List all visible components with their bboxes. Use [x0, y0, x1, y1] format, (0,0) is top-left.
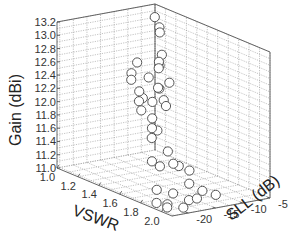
- grid-line: [57, 117, 155, 135]
- y-tick-label: -5: [278, 198, 288, 210]
- z-tick-label: 11.4: [35, 135, 56, 147]
- y-tick-label: -20: [196, 213, 212, 225]
- data-point: [134, 97, 143, 106]
- z-tick-label: 13.2: [35, 16, 56, 28]
- grid-line: [155, 97, 270, 145]
- grid-line: [57, 137, 155, 155]
- grid-line: [155, 17, 270, 65]
- grid-line: [57, 24, 155, 42]
- data-point: [147, 157, 156, 166]
- z-tick-label: 13.0: [35, 29, 56, 41]
- z-tick-label: 12.4: [35, 69, 56, 81]
- data-point: [127, 75, 136, 84]
- data-points: [127, 13, 221, 213]
- data-point: [137, 106, 146, 115]
- grid-line: [155, 11, 270, 59]
- y-tick: [213, 207, 216, 208]
- data-point: [179, 203, 188, 212]
- grid-line: [57, 130, 155, 148]
- data-point: [147, 124, 156, 133]
- data-point: [135, 87, 144, 96]
- data-point: [150, 13, 159, 22]
- data-point: [185, 166, 194, 175]
- z-tick-label: 12.6: [35, 56, 56, 68]
- data-point: [155, 28, 164, 37]
- data-point: [185, 179, 194, 188]
- grid-line: [155, 70, 270, 118]
- data-point: [211, 190, 220, 199]
- z-tick-label: 11.2: [35, 149, 56, 161]
- top-right-edge: [155, 4, 270, 52]
- x-tick-label: 2.0: [144, 215, 159, 227]
- data-point: [163, 203, 172, 212]
- data-point: [148, 114, 157, 123]
- z-tick-label: 12.0: [35, 96, 56, 108]
- z-axis-label: Gain (dBi): [7, 74, 24, 146]
- scatter-3d-chart: 11.011.211.411.611.812.012.212.412.612.8…: [0, 0, 290, 246]
- grid-line: [155, 104, 270, 152]
- data-point: [152, 185, 161, 194]
- data-point: [169, 159, 178, 168]
- z-tick-label: 12.8: [35, 43, 56, 55]
- data-point: [165, 78, 174, 87]
- x-tick-label: 1.0: [40, 171, 55, 183]
- y-axis-label: SLL (dB): [223, 172, 283, 224]
- data-point: [168, 189, 177, 198]
- data-point: [163, 147, 172, 156]
- grid-line: [57, 17, 155, 35]
- z-tick-label: 11.8: [35, 109, 56, 121]
- grid-line: [57, 70, 155, 88]
- grid-line: [155, 24, 270, 72]
- grid-line: [155, 130, 270, 178]
- data-point: [152, 198, 161, 207]
- z-axis-ticks: 11.011.211.411.611.812.012.212.412.612.8…: [35, 16, 60, 174]
- x-tick-label: 1.8: [123, 206, 138, 218]
- grid-line: [57, 31, 155, 49]
- grid-line: [57, 143, 155, 161]
- grid-line: [155, 31, 270, 79]
- data-point: [148, 97, 157, 106]
- data-point: [154, 64, 163, 73]
- grid-line: [57, 37, 155, 55]
- data-point: [155, 162, 164, 171]
- x-tick-label: 1.4: [82, 188, 97, 200]
- data-point: [192, 194, 201, 203]
- grid-line: [155, 64, 270, 112]
- data-point: [147, 133, 156, 142]
- x-tick-label: 1.6: [102, 197, 117, 209]
- data-point: [161, 101, 170, 110]
- grid-line: [155, 90, 270, 138]
- top-left-edge: [57, 4, 155, 22]
- data-point: [144, 73, 153, 82]
- y-tick: [185, 212, 188, 213]
- data-point: [153, 83, 162, 92]
- z-tick-label: 11.6: [35, 122, 56, 134]
- data-point: [133, 58, 142, 67]
- z-tick-label: 12.2: [35, 82, 56, 94]
- grid-line: [155, 50, 270, 98]
- grid-line: [155, 117, 270, 165]
- grid-line: [57, 123, 155, 141]
- grid-line: [155, 84, 270, 132]
- grid-line: [57, 64, 155, 82]
- x-tick-label: 1.2: [61, 180, 76, 192]
